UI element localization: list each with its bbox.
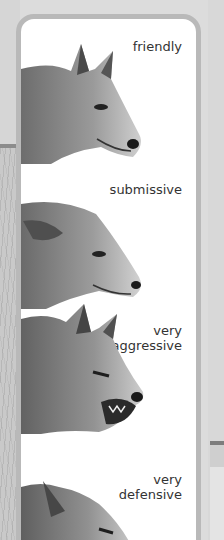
panel-very-aggressive: very aggressive: [21, 279, 196, 434]
right-background-panel: [210, 467, 224, 540]
panel-friendly: friendly: [21, 19, 196, 144]
wolf-expressions-card: friendly submissive: [16, 14, 201, 540]
previous-page-tab[interactable]: [210, 445, 224, 467]
wolf-head-very-defensive-illustration: [21, 479, 151, 540]
wolf-head-very-aggressive-illustration: [21, 294, 151, 434]
panel-label: submissive: [110, 182, 182, 197]
panel-submissive: submissive: [21, 144, 196, 279]
panel-very-defensive: very defensive: [21, 434, 196, 540]
